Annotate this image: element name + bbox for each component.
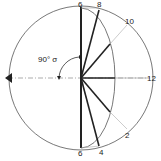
arrow-marker-icon — [5, 73, 12, 83]
label-top-6: 6 — [78, 0, 83, 9]
label-8: 8 — [97, 0, 102, 9]
label-bottom-6: 6 — [78, 149, 83, 158]
stress-circle-diagram: 6 8 10 12 2 4 6 90° σ — [0, 0, 161, 161]
proj-10 — [110, 25, 127, 44]
angle-arc — [59, 57, 79, 78]
proj-4 — [81, 146, 99, 148]
label-2: 2 — [125, 131, 130, 140]
label-12: 12 — [147, 74, 156, 83]
proj-2 — [110, 112, 127, 129]
label-10: 10 — [125, 17, 134, 26]
label-angle: 90° σ — [38, 55, 57, 64]
label-4: 4 — [99, 148, 104, 157]
